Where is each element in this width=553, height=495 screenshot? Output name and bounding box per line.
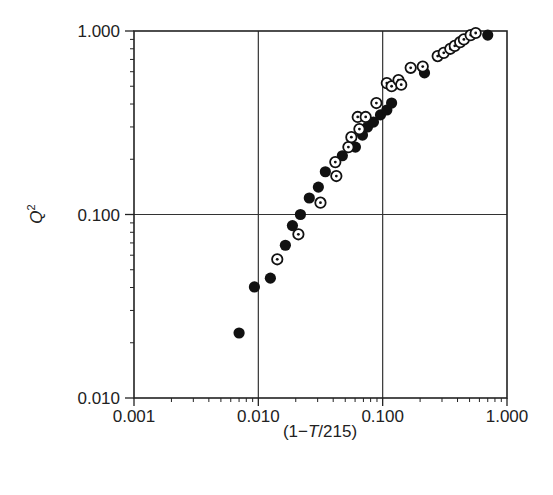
filled-circle-marker xyxy=(265,273,276,284)
y-tick-label: 0.100 xyxy=(77,206,120,225)
filled-circle-marker xyxy=(304,192,315,203)
x-axis-title: (1−T/215) xyxy=(283,422,357,441)
filled-circle-marker xyxy=(320,166,331,177)
filled-circle-marker xyxy=(249,281,260,292)
filled-circle-marker xyxy=(482,29,493,40)
y-axis-tick-labels: 0.0100.1001.000 xyxy=(77,22,120,408)
y-axis-title: Q2 xyxy=(25,204,46,223)
filled-circle-marker xyxy=(233,327,244,338)
data-points xyxy=(233,28,493,339)
x-tick-label: 0.010 xyxy=(237,407,280,426)
grid-lines xyxy=(134,31,507,398)
filled-circle-marker xyxy=(386,97,397,108)
filled-circle-marker xyxy=(295,209,306,220)
chart: 0.0010.0100.1001.000 0.0100.1001.000 (1−… xyxy=(0,0,553,495)
minor-ticks xyxy=(125,31,507,406)
y-tick-label: 0.010 xyxy=(77,389,120,408)
x-tick-label: 0.100 xyxy=(361,407,404,426)
y-tick-label: 1.000 xyxy=(77,22,120,41)
x-tick-label: 1.000 xyxy=(486,407,529,426)
x-tick-label: 0.001 xyxy=(113,407,156,426)
filled-circle-marker xyxy=(313,182,324,193)
filled-circle-marker xyxy=(280,240,291,251)
